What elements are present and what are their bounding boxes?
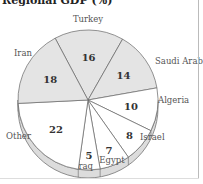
slice-value-iraq: 5	[85, 150, 92, 161]
slice-value-other: 22	[49, 124, 63, 135]
slice-label-israel: Israel	[140, 132, 165, 142]
slice-label-iran: Iran	[14, 48, 32, 58]
slice-label-other: Other	[6, 131, 32, 141]
slice-label-algeria: Algeria	[157, 95, 189, 105]
slice-value-algeria: 10	[124, 101, 138, 112]
slice-value-israel: 8	[126, 130, 133, 141]
slice-label-turkey: Turkey	[73, 14, 103, 24]
slice-value-iran: 18	[43, 74, 57, 85]
slice-label-saudi-arabia: Saudi Arabia	[155, 56, 203, 66]
frame-border-right	[198, 0, 199, 178]
pie-chart: 16Turkey14Saudi Arabia10Algeria8Israel7E…	[0, 0, 203, 184]
frame-border-bottom	[0, 178, 199, 179]
slice-value-turkey: 16	[82, 52, 96, 63]
slice-label-egypt: Egypt	[99, 155, 125, 165]
slice-value-saudi-arabia: 14	[117, 70, 131, 81]
